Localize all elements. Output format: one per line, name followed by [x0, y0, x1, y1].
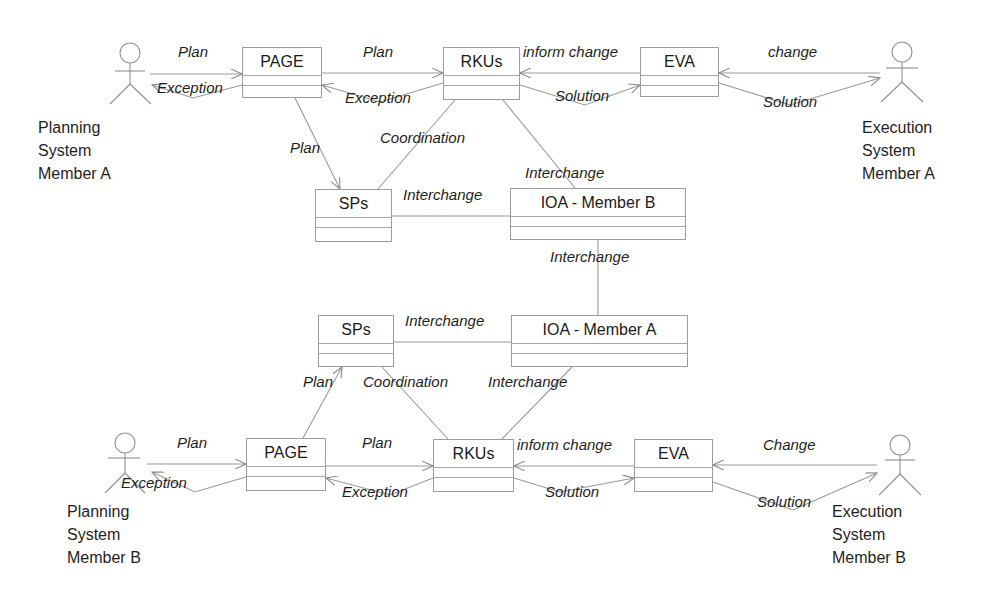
class-rkus-a[interactable]: RKUs: [443, 47, 520, 100]
class-name: EVA: [635, 440, 712, 467]
class-eva-b[interactable]: EVA: [634, 439, 713, 492]
edge-label: Solution: [545, 483, 599, 500]
class-page-b[interactable]: PAGE: [246, 438, 326, 491]
attribute-divider: [444, 75, 519, 76]
edge-label: change: [768, 43, 817, 60]
actor-label-execution-a: Execution System Member A: [862, 116, 935, 185]
edge-label: Interchange: [405, 312, 484, 329]
edge-label: Plan: [362, 434, 392, 451]
class-name: RKUs: [434, 440, 513, 467]
class-sps-member-b[interactable]: SPs: [315, 189, 392, 242]
method-divider: [512, 353, 687, 354]
edge-label: Solution: [555, 87, 609, 104]
class-ioa-member-a[interactable]: IOA - Member A: [511, 315, 688, 367]
actor-label-execution-b: Execution System Member B: [832, 500, 906, 569]
class-name: IOA - Member A: [512, 316, 687, 343]
edge-label: Interchange: [550, 248, 629, 265]
class-page-a[interactable]: PAGE: [242, 47, 322, 98]
edge-label: Interchange: [403, 186, 482, 203]
edge-label: Plan: [177, 434, 207, 451]
class-eva-a[interactable]: EVA: [640, 47, 719, 97]
edge-label: Plan: [363, 43, 393, 60]
edge-label: Interchange: [525, 164, 604, 181]
attribute-divider: [641, 75, 718, 76]
method-divider: [319, 353, 393, 354]
edge-label: inform change: [517, 436, 612, 453]
edge-label: Exception: [157, 79, 223, 96]
edge-label: Solution: [763, 93, 817, 110]
edge-label: Plan: [178, 43, 208, 60]
class-name: PAGE: [247, 439, 325, 466]
actor-icon-planning-a: [110, 43, 151, 104]
actor-label-planning-a: Planning System Member A: [38, 116, 111, 185]
method-divider: [641, 85, 718, 86]
class-name: SPs: [316, 190, 391, 217]
class-name: IOA - Member B: [511, 189, 685, 216]
method-divider: [434, 477, 513, 478]
method-divider: [243, 85, 321, 86]
edge-label: Coordination: [363, 373, 448, 390]
class-name: RKUs: [444, 48, 519, 75]
attribute-divider: [512, 343, 687, 344]
edge-label: Interchange: [488, 373, 567, 390]
class-rkus-b[interactable]: RKUs: [433, 439, 514, 492]
attribute-divider: [635, 467, 712, 468]
attribute-divider: [434, 467, 513, 468]
class-ioa-member-b[interactable]: IOA - Member B: [510, 188, 686, 240]
attribute-divider: [511, 216, 685, 217]
method-divider: [635, 477, 712, 478]
actor-label-planning-b: Planning System Member B: [67, 500, 141, 569]
edge-label: Change: [763, 436, 816, 453]
edge-label: Exception: [342, 483, 408, 500]
class-name: EVA: [641, 48, 718, 75]
method-divider: [444, 85, 519, 86]
edge-label: Plan: [303, 373, 333, 390]
method-divider: [316, 227, 391, 228]
actor-icon-execution-a: [881, 42, 923, 102]
uml-collaboration-diagram: PAGE RKUs EVA SPs IOA - Member B SPs IOA…: [0, 0, 984, 601]
edge-label: inform change: [523, 43, 618, 60]
attribute-divider: [319, 343, 393, 344]
method-divider: [511, 226, 685, 227]
edge-label: Plan: [290, 139, 320, 156]
edge-label: Exception: [121, 474, 187, 491]
actor-icon-execution-b: [879, 435, 921, 495]
edge-label: Coordination: [380, 129, 465, 146]
attribute-divider: [316, 217, 391, 218]
class-name: SPs: [319, 316, 393, 343]
attribute-divider: [243, 75, 321, 76]
class-sps-member-a[interactable]: SPs: [318, 315, 394, 367]
method-divider: [247, 476, 325, 477]
class-name: PAGE: [243, 48, 321, 75]
edge-label: Solution: [757, 493, 811, 510]
edge-label: Exception: [345, 89, 411, 106]
attribute-divider: [247, 466, 325, 467]
